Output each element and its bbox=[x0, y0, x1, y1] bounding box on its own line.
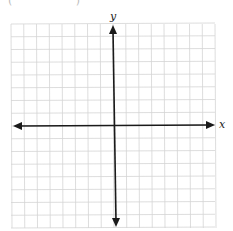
x-axis-label: x bbox=[219, 118, 226, 131]
x-axis-left-arrow-icon bbox=[13, 122, 22, 130]
y-axis-up-arrow-icon bbox=[109, 25, 117, 34]
y-axis-down-arrow-icon bbox=[112, 218, 120, 227]
x-axis-right-arrow-icon bbox=[206, 121, 215, 129]
y-axis-label: y bbox=[109, 10, 117, 23]
coordinate-plane: y x bbox=[0, 0, 233, 231]
